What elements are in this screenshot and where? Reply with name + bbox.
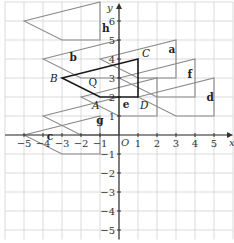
- shape-label-b: b: [70, 51, 77, 63]
- y-tick-label: 1: [109, 111, 115, 122]
- y-tick-label: −3: [100, 187, 115, 198]
- shape-label-h: h: [102, 22, 110, 34]
- shape-label-e: e: [123, 98, 130, 110]
- x-tick-label: 5: [211, 138, 217, 149]
- x-tick-label: −3: [55, 138, 70, 149]
- origin-label: O: [121, 137, 129, 148]
- y-tick-label: 5: [109, 35, 115, 46]
- y-tick-label: −1: [100, 149, 115, 160]
- vertex-label-C: C: [142, 47, 150, 59]
- y-tick-label: −2: [100, 168, 115, 179]
- y-axis-arrow-icon: [116, 3, 122, 9]
- vertex-label-A: A: [91, 99, 100, 111]
- y-tick-label: 4: [109, 54, 115, 65]
- y-tick-label: 6: [109, 16, 115, 27]
- x-tick-label: 1: [135, 138, 141, 149]
- shape-label-Q: Q: [89, 76, 98, 88]
- y-tick-label: −4: [100, 206, 115, 217]
- shape-label-g: g: [96, 114, 104, 126]
- x-tick-label: 2: [154, 138, 160, 149]
- shape-label-c: c: [47, 130, 53, 142]
- translation-diagram: −5−4−3−2−112345−5−4−3−2−1123456xyOBCDAQa…: [0, 0, 234, 243]
- vertex-label-B: B: [49, 72, 58, 84]
- x-tick-label: −2: [74, 138, 89, 149]
- x-axis-label: x: [229, 137, 234, 148]
- x-tick-label: 3: [173, 138, 179, 149]
- shape-label-d: d: [206, 91, 214, 103]
- x-tick-label: 4: [192, 138, 198, 149]
- vertex-label-D: D: [139, 99, 149, 111]
- y-axis-label: y: [106, 2, 113, 13]
- y-tick-label: 3: [109, 73, 115, 84]
- x-tick-label: −5: [17, 138, 32, 149]
- x-tick-label: −1: [93, 138, 108, 149]
- y-tick-label: −5: [100, 225, 115, 236]
- shape-label-a: a: [168, 43, 175, 55]
- coordinate-grid: −5−4−3−2−112345−5−4−3−2−1123456xyOBCDAQa…: [0, 0, 234, 243]
